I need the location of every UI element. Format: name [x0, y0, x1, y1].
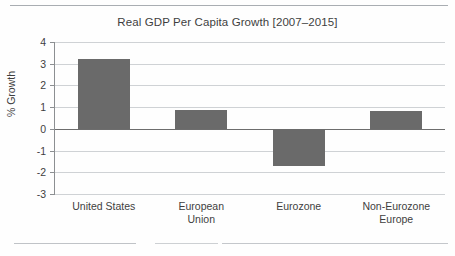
x-category-label-line: Union [153, 213, 251, 226]
x-category-label: EuropeanUnion [153, 200, 251, 226]
y-axis-title: % Growth [5, 59, 17, 129]
x-category-label-line: Europe [348, 213, 446, 226]
y-tick-label: 3 [40, 58, 46, 70]
y-tick-mark [50, 129, 55, 130]
x-category-label: Non-EurozoneEurope [348, 200, 446, 226]
gridline [55, 151, 445, 152]
page-rule-top [10, 5, 448, 6]
x-category-label-line: Eurozone [250, 200, 348, 213]
y-tick-mark [50, 107, 55, 108]
y-tick-mark [50, 172, 55, 173]
x-category-label: Eurozone [250, 200, 348, 213]
y-tick-label: 2 [40, 79, 46, 91]
x-category-label-line: United States [55, 200, 153, 213]
bar [370, 111, 422, 128]
y-tick-label: 1 [40, 101, 46, 113]
gridline [55, 194, 445, 195]
bar [78, 59, 130, 128]
page-rule-bottom-3 [222, 243, 448, 244]
bar [273, 129, 325, 166]
y-tick-label: 0 [40, 123, 46, 135]
plot-area: 43210-1-2-3 [55, 42, 445, 194]
chart-title: Real GDP Per Capita Growth [2007–2015] [0, 16, 455, 28]
page-rule-bottom-1 [14, 243, 136, 244]
y-tick-mark [50, 42, 55, 43]
y-tick-mark [50, 85, 55, 86]
y-tick-mark [50, 194, 55, 195]
gridline [55, 172, 445, 173]
gridline [55, 42, 445, 43]
x-category-label-line: Non-Eurozone [348, 200, 446, 213]
y-tick-label: -3 [37, 188, 46, 200]
page-rule-bottom-2 [155, 243, 218, 244]
zero-line [55, 129, 445, 131]
y-tick-mark [50, 151, 55, 152]
x-category-label: United States [55, 200, 153, 213]
x-category-label-line: European [153, 200, 251, 213]
y-tick-mark [50, 64, 55, 65]
y-tick-label: -1 [37, 145, 46, 157]
chart-page: Real GDP Per Capita Growth [2007–2015] %… [0, 0, 455, 256]
y-tick-label: 4 [40, 36, 46, 48]
bar [175, 110, 227, 128]
y-tick-label: -2 [37, 166, 46, 178]
